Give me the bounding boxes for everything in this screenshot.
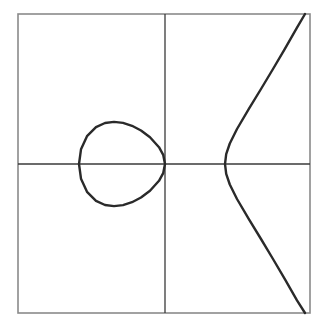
elliptic-curve-figure <box>0 0 327 330</box>
